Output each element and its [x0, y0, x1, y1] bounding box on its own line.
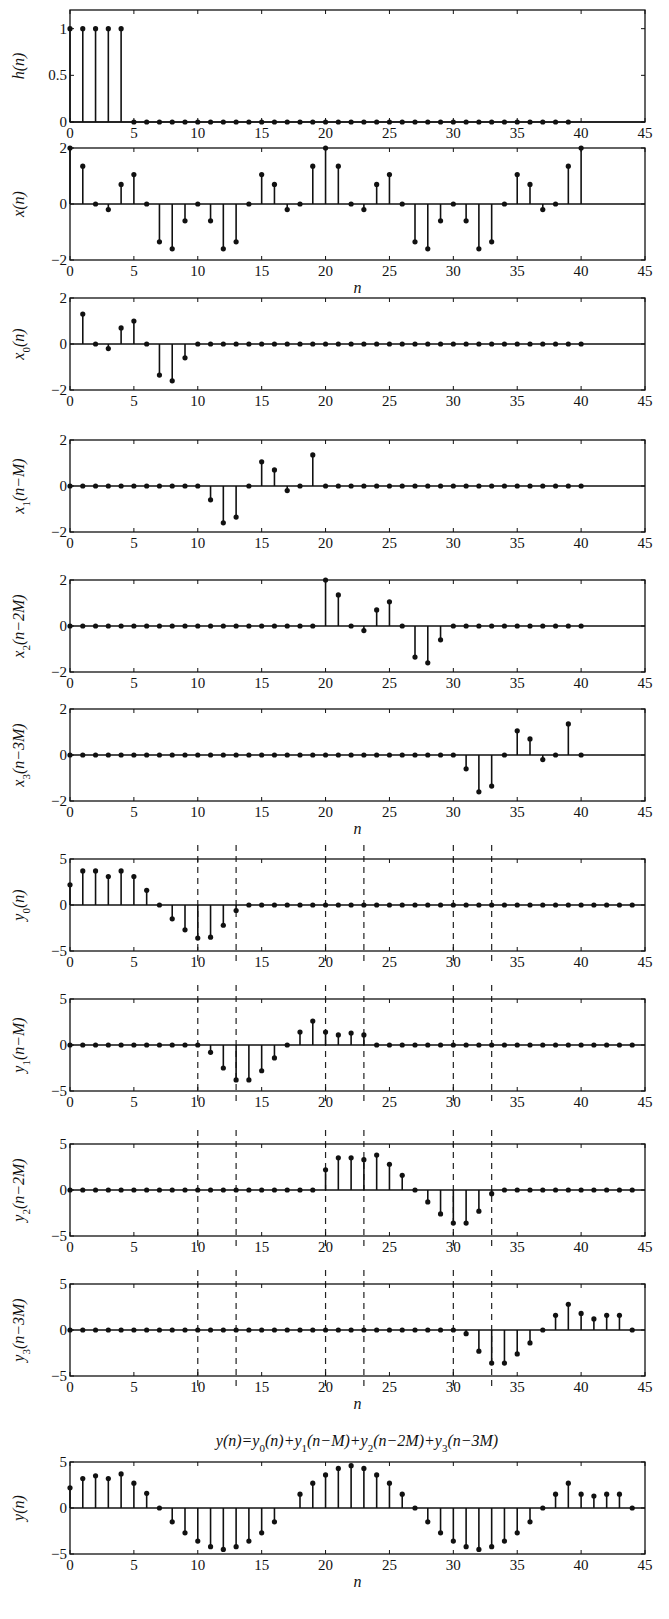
x-tick-label: 15 [254, 393, 269, 409]
stem-marker [80, 483, 85, 488]
stem-marker [387, 902, 392, 907]
stem-marker [208, 341, 213, 346]
y-axis-label: x0(n) [10, 328, 32, 360]
stem-marker [195, 341, 200, 346]
stem-marker [425, 341, 430, 346]
x-tick-label: 25 [382, 954, 397, 970]
stem-marker [208, 119, 213, 124]
stem-marker [451, 1042, 456, 1047]
stem-marker [527, 1187, 532, 1192]
stem-marker [540, 623, 545, 628]
stem-marker [323, 119, 328, 124]
y-tick-label: 0 [60, 478, 68, 494]
stem-marker [489, 1361, 494, 1366]
stem-marker [336, 1466, 341, 1471]
x-tick-label: 30 [446, 1094, 461, 1110]
x-tick-label: 35 [510, 263, 525, 279]
stem-marker [425, 119, 430, 124]
stem-marker [272, 341, 277, 346]
x-tick-label: 35 [510, 954, 525, 970]
stem-marker [361, 1157, 366, 1162]
stem-marker [476, 1547, 481, 1552]
x-tick-label: 20 [318, 393, 333, 409]
stem-marker [221, 1187, 226, 1192]
stem-marker [579, 1187, 584, 1192]
stem-marker [387, 599, 392, 604]
stem-marker [259, 1187, 264, 1192]
stem-marker [208, 1327, 213, 1332]
x-tick-label: 0 [66, 1094, 74, 1110]
stem-marker [144, 623, 149, 628]
x-tick-label: 35 [510, 1239, 525, 1255]
stem-marker [170, 1327, 175, 1332]
stem-marker [476, 1349, 481, 1354]
x-tick-label: 10 [190, 535, 205, 551]
x-tick-label: 0 [66, 1379, 74, 1395]
stem-marker [451, 1539, 456, 1544]
stem-marker [630, 902, 635, 907]
x-tick-label: 25 [382, 1379, 397, 1395]
subplot-y: 051015202530354045−505y(n)n [10, 1454, 653, 1590]
stem-marker [119, 483, 124, 488]
stem-marker [425, 1199, 430, 1204]
stem-marker [259, 172, 264, 177]
stem-marker [195, 201, 200, 206]
x-tick-label: 5 [130, 263, 138, 279]
x-tick-label: 25 [382, 1239, 397, 1255]
stem-marker [234, 514, 239, 519]
x-tick-label: 30 [446, 675, 461, 691]
stem-marker [400, 902, 405, 907]
stem-marker [464, 1331, 469, 1336]
y-tick-label: 1 [60, 21, 68, 37]
x-tick-label: 45 [638, 1094, 653, 1110]
subplot-x1: 051015202530354045−202x1(n−M) [10, 432, 653, 551]
stem-marker [579, 1492, 584, 1497]
stem-marker [221, 623, 226, 628]
stem-marker [234, 908, 239, 913]
stem-marker [387, 1327, 392, 1332]
x-tick-label: 30 [446, 1239, 461, 1255]
stem-marker [67, 882, 72, 887]
stem-marker [336, 164, 341, 169]
stem-marker [374, 341, 379, 346]
stem-marker [425, 1519, 430, 1524]
stem-marker [285, 623, 290, 628]
x-tick-label: 10 [190, 675, 205, 691]
stem-marker [387, 341, 392, 346]
stem-marker [464, 766, 469, 771]
y-tick-label: 0 [60, 196, 68, 212]
stem-marker [591, 902, 596, 907]
x-tick-label: 45 [638, 393, 653, 409]
stem-marker [106, 26, 111, 31]
y-tick-label: −5 [51, 1546, 67, 1562]
stem-marker [297, 483, 302, 488]
stem-marker [221, 1327, 226, 1332]
stem-marker [106, 1187, 111, 1192]
stem-marker [221, 246, 226, 251]
y-tick-label: 0 [60, 618, 68, 634]
stem-marker [553, 201, 558, 206]
x-tick-label: 45 [638, 1379, 653, 1395]
stem-marker [502, 483, 507, 488]
stem-marker [502, 1187, 507, 1192]
y-tick-label: 0 [60, 1182, 68, 1198]
x-axis-label: n [354, 820, 362, 837]
stem-marker [566, 1481, 571, 1486]
stem-marker [272, 902, 277, 907]
stem-marker [438, 119, 443, 124]
stem-marker [527, 119, 532, 124]
stem-marker [323, 1327, 328, 1332]
x-tick-label: 30 [446, 954, 461, 970]
y-tick-label: −2 [51, 524, 67, 540]
x-tick-label: 35 [510, 1094, 525, 1110]
stem-marker [387, 1162, 392, 1167]
y-tick-label: 2 [60, 432, 68, 448]
stem-marker [310, 623, 315, 628]
y-axis-label: x2(n−2M) [10, 594, 32, 658]
stem-marker [157, 902, 162, 907]
stem-marker [310, 1481, 315, 1486]
stem-marker [527, 1519, 532, 1524]
stem-marker [80, 26, 85, 31]
x-tick-label: 30 [446, 263, 461, 279]
stem-marker [297, 752, 302, 757]
